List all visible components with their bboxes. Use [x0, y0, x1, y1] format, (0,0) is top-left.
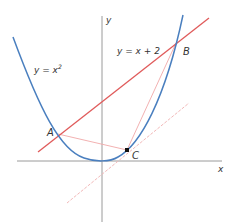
parabola-label-exponent: 2 — [58, 63, 62, 70]
point-c-label: C — [132, 151, 139, 161]
point-a-label: A — [47, 128, 54, 138]
parabola-label-base: y = x — [34, 65, 58, 75]
line-label: y = x + 2 — [117, 47, 160, 56]
tangent-line — [67, 103, 189, 203]
y-axis-label: y — [106, 16, 111, 25]
diagram-canvas: y x y = x2 y = x + 2 A B C — [0, 0, 236, 223]
diagram-svg — [0, 0, 236, 223]
point-b-label: B — [183, 47, 190, 57]
point-c-marker — [125, 148, 129, 152]
x-axis-label: x — [218, 165, 223, 174]
line-y-x-plus-2 — [38, 18, 209, 152]
parabola-curve — [13, 15, 183, 161]
parabola-label: y = x2 — [34, 64, 62, 75]
